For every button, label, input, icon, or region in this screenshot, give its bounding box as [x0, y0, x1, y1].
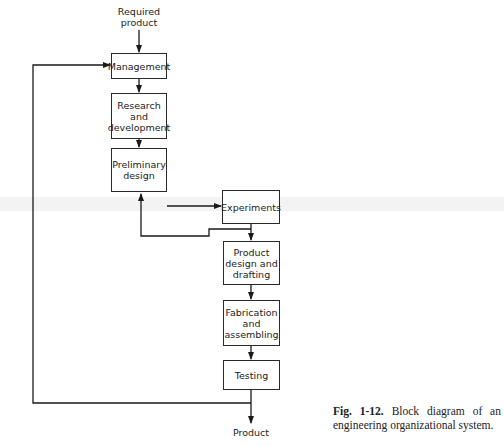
block-label: Research and development [108, 100, 171, 133]
output-label: Product [221, 427, 281, 438]
figure-number: Fig. 1-12. [333, 405, 384, 417]
block-label: Testing [235, 370, 268, 381]
block-fabrication: Fabrication and assembling [223, 300, 280, 346]
block-label: Fabrication and assembling [224, 307, 279, 340]
block-testing: Testing [223, 360, 280, 390]
block-label: Product design and drafting [224, 247, 279, 280]
block-product-design: Product design and drafting [223, 241, 280, 285]
block-label: Experiments [221, 202, 281, 213]
input-label: Required product [108, 6, 170, 28]
block-preliminary-design: Preliminary design [111, 148, 167, 192]
block-label: Management [108, 61, 171, 72]
figure-caption: Fig. 1-12. Block diagram of an engineeri… [333, 404, 501, 432]
block-experiments: Experiments [222, 190, 280, 224]
block-research: Research and development [111, 93, 167, 139]
block-label: Preliminary design [112, 159, 166, 181]
block-management: Management [111, 53, 167, 79]
